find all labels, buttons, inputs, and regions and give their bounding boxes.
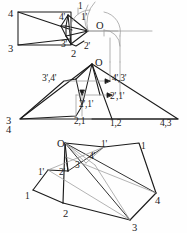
label-front-4-prime: 4' (59, 13, 65, 23)
label-front-1-prime: 1' (81, 13, 87, 23)
label-pictorial-4-prime: 4' (89, 152, 95, 162)
label-front-3: 3 (8, 44, 13, 55)
label-pictorial-apex-o: O (57, 139, 64, 150)
label-pictorial-2: 2 (63, 209, 68, 220)
label-top-4: 4 (6, 125, 11, 136)
label-top-apex-o: O (95, 58, 102, 69)
label-top-2p-1p-left: 2',1' (79, 100, 93, 110)
label-pictorial-1-prime-top: 1' (101, 140, 107, 150)
label-pictorial-1-bottom-left: 1 (25, 192, 30, 202)
label-top-1-2: 1,2 (110, 119, 121, 129)
label-top-4-3: 4,3 (160, 119, 171, 129)
label-front-3-prime: 3' (61, 40, 67, 50)
drawing-sheet: 1 4 4' 1' O 3' 2' 3 2 O 3',4' 4',3' 2',1… (0, 0, 187, 233)
label-top-2-1: 2,1 (74, 117, 85, 127)
label-pictorial-3-inner: 3 (75, 161, 80, 171)
label-pictorial-4: 4 (155, 196, 160, 207)
label-pictorial-1-prime-left: 1' (38, 168, 44, 178)
label-front-2: 2 (71, 49, 76, 60)
label-front-apex-o: O (96, 21, 103, 32)
label-front-4: 4 (8, 9, 13, 20)
label-pictorial-2-prime: 2' (59, 168, 65, 178)
label-front-2-prime: 2' (84, 42, 90, 52)
label-pictorial-1-right: 1 (141, 142, 146, 152)
label-top-4p-3p: 4',3' (112, 74, 126, 84)
front-view-geometry (18, 12, 88, 46)
label-top-2p-1p-right: 2',1' (110, 92, 124, 102)
label-top-3p-4p: 3',4' (42, 74, 56, 84)
label-front-1: 1 (78, 2, 83, 12)
label-pictorial-3: 3 (132, 223, 137, 233)
